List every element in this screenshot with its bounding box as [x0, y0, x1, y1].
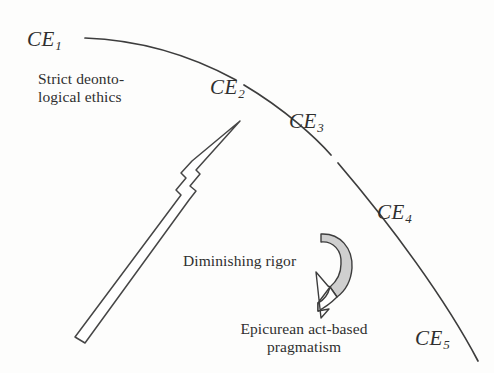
diagram-vector-layer [0, 0, 494, 373]
label-ce5-base: CE [415, 326, 443, 350]
label-ce2-sub: 2 [238, 86, 245, 101]
label-ce5-sub: 5 [443, 337, 450, 352]
label-ce3-base: CE [289, 109, 317, 133]
annotation-deontological-line1: Strict deonto- [38, 70, 124, 88]
label-ce4-base: CE [377, 200, 405, 224]
label-ce3-sub: 3 [317, 120, 324, 135]
label-ce2: CE2 [210, 75, 245, 100]
curved-shaded-arrow [316, 234, 352, 318]
annotation-deontological-ethics: Strict deonto- logical ethics [38, 70, 124, 107]
annotation-deontological-line2: logical ethics [38, 88, 124, 106]
label-ce1-base: CE [27, 27, 55, 51]
annotation-epicurean-line2: pragmatism [228, 338, 380, 356]
label-ce1-sub: 1 [55, 38, 62, 53]
concentric-ethics-arc [85, 38, 478, 361]
diminishing-rigor-arrow [75, 121, 240, 343]
annotation-epicurean-pragmatism: Epicurean act-based pragmatism [228, 320, 380, 357]
label-ce4: CE4 [377, 200, 412, 225]
annotation-epicurean-line1: Epicurean act-based [228, 320, 380, 338]
label-ce2-base: CE [210, 75, 238, 99]
label-ce5: CE5 [415, 326, 450, 351]
ethics-arc-figure: CE1 CE2 CE3 CE4 CE5 Strict deonto- logic… [0, 0, 494, 373]
annotation-diminishing-rigor: Diminishing rigor [183, 252, 296, 270]
label-ce4-sub: 4 [405, 211, 412, 226]
label-ce3: CE3 [289, 109, 324, 134]
label-ce1: CE1 [27, 27, 62, 52]
